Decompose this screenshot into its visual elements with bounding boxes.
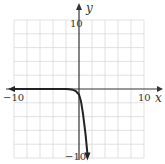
x-min-tick-label: −10 [3,93,24,103]
y-max-tick-label: 10 [70,19,83,29]
y-axis-label: y [86,2,93,14]
y-axis-arrow-icon [76,3,82,10]
y-min-tick-label: −10 [65,152,86,162]
x-axis-label: x [155,92,162,104]
x-max-tick-label: 10 [138,93,151,103]
function-curve [14,89,88,155]
